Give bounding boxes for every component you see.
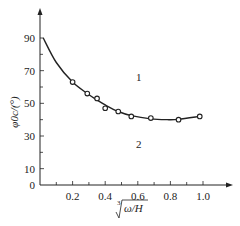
y-tick-label: 0 — [30, 179, 36, 191]
y-tick-label: 50 — [24, 97, 36, 109]
x-tick-label: 1.0 — [196, 190, 210, 202]
y-axis-title: φ0c/(°) — [8, 96, 21, 128]
x-tick-label: 0.4 — [98, 190, 112, 202]
fitted-curve — [43, 38, 199, 120]
line-chart: 0.20.40.60.81.001030507090 1 2 φ0c/(°) 3… — [0, 0, 240, 226]
region-label-2: 2 — [136, 138, 142, 150]
y-axis-arrow-icon — [38, 8, 43, 15]
data-point-marker — [85, 91, 90, 96]
data-point-marker — [129, 114, 134, 119]
x-tick-label: 0.2 — [66, 190, 80, 202]
axes — [38, 8, 234, 188]
ticks: 0.20.40.60.81.001030507090 — [24, 32, 210, 202]
chart-container: 0.20.40.60.81.001030507090 1 2 φ0c/(°) 3… — [0, 0, 240, 226]
x-tick-label: 0.8 — [164, 190, 178, 202]
fitted-curve-line — [43, 38, 199, 120]
region-label-1: 1 — [136, 71, 142, 83]
y-tick-label: 90 — [24, 32, 36, 44]
data-point-marker — [103, 106, 108, 111]
data-point-marker — [197, 114, 202, 119]
data-point-marker — [95, 96, 100, 101]
data-points — [70, 80, 202, 122]
data-point-marker — [70, 80, 75, 85]
x-axis-radicand: ω/H — [124, 202, 144, 214]
x-axis-arrow-icon — [226, 183, 233, 188]
y-tick-label: 30 — [24, 130, 36, 142]
data-point-marker — [176, 117, 181, 122]
y-tick-label: 10 — [24, 163, 36, 175]
data-point-marker — [116, 109, 121, 114]
x-axis-root-index: 3 — [117, 199, 121, 207]
data-point-marker — [149, 116, 154, 121]
y-tick-label: 70 — [24, 65, 36, 77]
